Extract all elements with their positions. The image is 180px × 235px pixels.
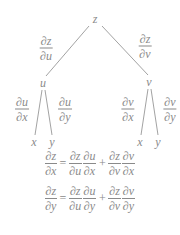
denominator: ∂x [45,164,56,177]
numerator: ∂z [45,185,58,199]
edge-v-y [151,89,158,135]
edge-u-y [45,90,52,135]
lhs-fraction: ∂z ∂x [45,150,58,177]
denominator: ∂u [40,49,52,62]
term2-factor2: ∂v ∂y [122,185,135,212]
numerator: ∂z [40,35,53,49]
denominator: ∂x [123,164,134,177]
denominator: ∂y [59,110,70,123]
denominator: ∂x [122,110,133,123]
numerator: ∂z [45,150,58,164]
numerator: ∂z [108,150,121,164]
term2-factor2: ∂v ∂x [122,150,135,177]
chain-rule-equation-y: ∂z ∂y = ∂z ∂u ∂u ∂y + ∂z ∂v ∂v ∂y [44,185,136,212]
numerator: ∂z [108,185,121,199]
denominator: ∂u [69,199,81,212]
edge-label-du-dx: ∂u ∂x [15,96,29,123]
node-u-x: x [31,136,36,148]
node-v: v [146,76,151,88]
numerator: ∂z [139,33,152,47]
denominator: ∂y [45,199,56,212]
equals-sign: = [60,156,67,171]
edge-v-x [141,89,148,135]
numerator: ∂u [83,185,97,199]
lhs-fraction: ∂z ∂y [45,185,58,212]
edge-label-dz-dv: ∂z ∂v [139,33,152,60]
edge-u-x [35,90,42,135]
numerator: ∂u [58,96,72,110]
edge-label-dv-dy: ∂v ∂y [163,96,176,123]
numerator: ∂v [122,185,135,199]
denominator: ∂x [16,110,27,123]
chain-rule-equation-x: ∂z ∂x = ∂z ∂u ∂u ∂x + ∂z ∂v ∂v ∂x [44,150,136,177]
denominator: ∂y [84,199,95,212]
term2-factor1: ∂z ∂v [108,185,121,212]
numerator: ∂z [69,150,82,164]
denominator: ∂v [139,47,150,60]
node-u: u [40,77,46,89]
node-u-y: y [49,136,54,148]
denominator: ∂v [109,199,120,212]
denominator: ∂x [84,164,95,177]
term1-factor1: ∂z ∂u [69,185,82,212]
edge-label-du-dy: ∂u ∂y [58,96,72,123]
numerator: ∂u [15,96,29,110]
edge-z-u [46,26,89,76]
node-v-x: x [137,136,142,148]
node-v-y: y [155,136,160,148]
node-z: z [93,13,98,25]
plus-sign: + [99,191,106,206]
denominator: ∂y [164,110,175,123]
numerator: ∂v [163,96,176,110]
numerator: ∂z [69,185,82,199]
edge-label-dv-dx: ∂v ∂x [121,96,134,123]
term1-factor2: ∂u ∂y [83,185,97,212]
term2-factor1: ∂z ∂v [108,150,121,177]
term1-factor2: ∂u ∂x [83,150,97,177]
denominator: ∂y [123,199,134,212]
numerator: ∂u [83,150,97,164]
edge-label-dz-du: ∂z ∂u [40,35,53,62]
term1-factor1: ∂z ∂u [69,150,82,177]
equals-sign: = [60,191,67,206]
denominator: ∂u [69,164,81,177]
denominator: ∂v [109,164,120,177]
numerator: ∂v [122,150,135,164]
numerator: ∂v [121,96,134,110]
plus-sign: + [99,156,106,171]
